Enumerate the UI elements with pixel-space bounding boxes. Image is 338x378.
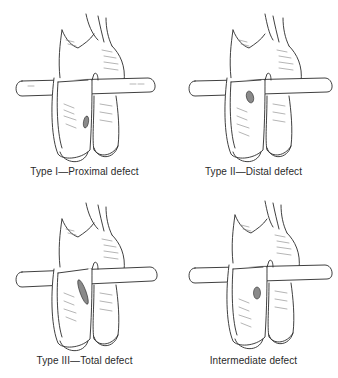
panel-caption: Type I—Proximal defect [0, 166, 169, 177]
figure-grid: Type I—Proximal defect [0, 0, 338, 378]
heart-illustration-icon [169, 189, 338, 378]
panel-type-1: Type I—Proximal defect [0, 0, 169, 189]
panel-type-3: Type III—Total defect [0, 189, 169, 378]
panel-caption: Type III—Total defect [0, 355, 169, 366]
heart-illustration-icon [0, 0, 169, 189]
panel-intermediate: Intermediate defect [169, 189, 338, 378]
heart-illustration-icon [169, 0, 338, 189]
panel-caption: Type II—Distal defect [169, 166, 338, 177]
heart-illustration-icon [0, 189, 169, 378]
panel-caption: Intermediate defect [169, 355, 338, 366]
defect-marker [254, 287, 261, 299]
panel-type-2: Type II—Distal defect [169, 0, 338, 189]
